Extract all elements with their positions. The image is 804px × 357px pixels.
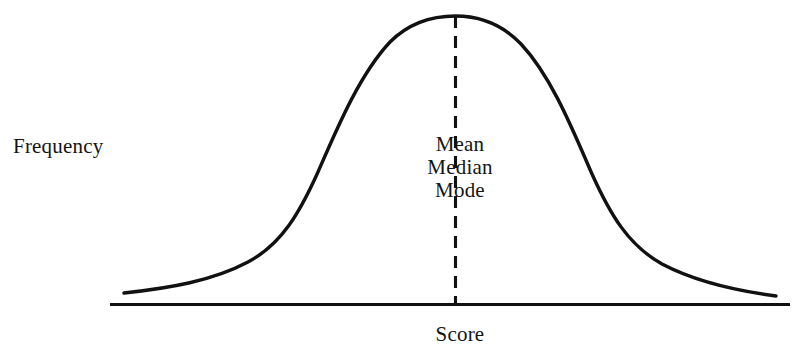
stat-label-median: Median xyxy=(4,156,804,179)
stat-label-mode: Mode xyxy=(4,179,804,202)
center-stats-labels: Mean Median Mode xyxy=(4,133,804,202)
normal-distribution-figure: Frequency Mean Median Mode Score xyxy=(0,0,804,357)
x-axis-label: Score xyxy=(4,324,804,345)
stat-label-mean: Mean xyxy=(4,133,804,156)
